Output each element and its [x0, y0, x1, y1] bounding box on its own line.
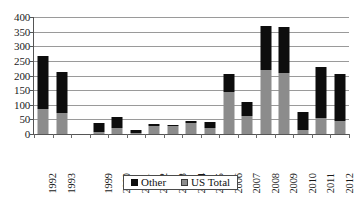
bar-stack[interactable] [297, 112, 308, 134]
bar-segment-us-total[interactable] [112, 128, 123, 134]
x-axis-tick-mark [312, 134, 313, 138]
bar-slot [127, 17, 146, 134]
bar-slot [145, 17, 164, 134]
bar-segment-other[interactable] [38, 56, 49, 110]
bar-segment-other[interactable] [260, 26, 271, 70]
bar-segment-us-total[interactable] [186, 123, 197, 134]
bar-segment-other[interactable] [112, 117, 123, 128]
y-axis-tick-label: 300 [14, 41, 30, 52]
y-axis-tick-label: 400 [14, 12, 30, 23]
x-axis-tick-labels: 1992199319992000200120022003200420052006… [33, 139, 348, 175]
bar-slot [182, 17, 201, 134]
x-axis-tick-label: 2009 [288, 173, 299, 194]
y-axis-tick-label: 150 [14, 85, 30, 96]
bar-stack[interactable] [205, 122, 216, 134]
x-axis-tick-label: 2010 [307, 173, 318, 194]
bar-stack[interactable] [279, 27, 290, 134]
bar-slot [238, 17, 257, 134]
bar-segment-us-total[interactable] [316, 118, 327, 134]
bar-slot [34, 17, 53, 134]
y-axis-tick-label: 250 [14, 55, 30, 66]
y-axis-tick-label: 100 [14, 99, 30, 110]
bar-slot [330, 17, 349, 134]
bar-stack[interactable] [167, 125, 178, 134]
legend-entry[interactable]: US Total [181, 177, 230, 188]
bar-stack[interactable] [38, 56, 49, 134]
y-axis-tick-labels: 400350300250200150100500 [0, 0, 30, 140]
x-axis-tick-label: 1993 [66, 173, 77, 194]
bar-stack[interactable] [316, 67, 327, 134]
bar-segment-other[interactable] [334, 74, 345, 121]
x-axis-tick-mark [256, 134, 257, 138]
bar-slot [71, 17, 90, 134]
x-axis-tick-mark [71, 134, 72, 138]
plot-area [33, 17, 349, 135]
bar-segment-other[interactable] [223, 74, 234, 92]
bar-segment-us-total[interactable] [205, 128, 216, 134]
bar-segment-us-total[interactable] [56, 113, 67, 134]
y-axis-tick-label: 200 [14, 70, 30, 81]
bar-slot [275, 17, 294, 134]
bars-layer [34, 17, 349, 134]
bar-stack[interactable] [260, 26, 271, 134]
bar-stack[interactable] [223, 74, 234, 134]
x-axis-tick-mark [349, 134, 350, 138]
bar-segment-us-total[interactable] [130, 133, 141, 134]
bar-stack[interactable] [242, 102, 253, 134]
bar-segment-us-total[interactable] [38, 109, 49, 134]
bar-segment-us-total[interactable] [260, 70, 271, 134]
x-axis-tick-label: 1992 [47, 173, 58, 194]
bar-stack[interactable] [186, 121, 197, 134]
bar-segment-other[interactable] [316, 67, 327, 117]
gray-square-swatch [181, 179, 188, 186]
x-axis-tick-mark [53, 134, 54, 138]
bar-slot [90, 17, 109, 134]
bar-segment-other[interactable] [93, 123, 104, 131]
bar-slot [201, 17, 220, 134]
bar-segment-other[interactable] [56, 72, 67, 113]
bar-segment-us-total[interactable] [149, 126, 160, 134]
x-axis-tick-mark [330, 134, 331, 138]
bar-stack[interactable] [130, 130, 141, 134]
x-axis-tick-mark [238, 134, 239, 138]
x-axis-tick-label: 2011 [325, 173, 336, 193]
bar-slot [293, 17, 312, 134]
x-axis-tick-mark [182, 134, 183, 138]
x-axis-tick-mark [127, 134, 128, 138]
x-axis-tick-mark [293, 134, 294, 138]
plot-wrapper: 400350300250200150100500 199219931999200… [0, 0, 353, 140]
bar-segment-us-total[interactable] [279, 73, 290, 134]
legend-entry[interactable]: Other [131, 177, 166, 188]
x-axis-tick-mark [201, 134, 202, 138]
x-axis-tick-mark [275, 134, 276, 138]
bar-stack[interactable] [149, 124, 160, 134]
bar-segment-us-total[interactable] [297, 130, 308, 134]
legend-label: Other [141, 177, 166, 188]
bar-segment-us-total[interactable] [167, 126, 178, 134]
bar-stack[interactable] [112, 117, 123, 134]
x-axis-tick-label: 2012 [344, 173, 355, 194]
bar-segment-other[interactable] [242, 102, 253, 116]
bar-segment-other[interactable] [297, 112, 308, 130]
bar-stack[interactable] [93, 123, 104, 134]
bar-segment-us-total[interactable] [93, 132, 104, 134]
x-axis-tick-mark [34, 134, 35, 138]
y-axis-tick-label: 50 [19, 114, 30, 125]
y-axis-tick-label: 350 [14, 26, 30, 37]
x-axis-tick-mark [219, 134, 220, 138]
bar-segment-us-total[interactable] [334, 121, 345, 134]
bar-segment-other[interactable] [279, 27, 290, 73]
bar-segment-us-total[interactable] [223, 92, 234, 134]
chart-legend: OtherUS Total [123, 175, 238, 190]
bar-stack[interactable] [334, 74, 345, 134]
bar-segment-us-total[interactable] [242, 116, 253, 134]
x-axis-tick-label: 2008 [270, 173, 281, 194]
x-axis-tick-mark [164, 134, 165, 138]
bar-slot [53, 17, 72, 134]
x-axis-tick-label: 2007 [251, 173, 262, 194]
bar-stack[interactable] [56, 72, 67, 134]
x-axis-tick-mark [90, 134, 91, 138]
x-axis-tick-mark [108, 134, 109, 138]
x-axis-tick-label: 1999 [103, 173, 114, 194]
